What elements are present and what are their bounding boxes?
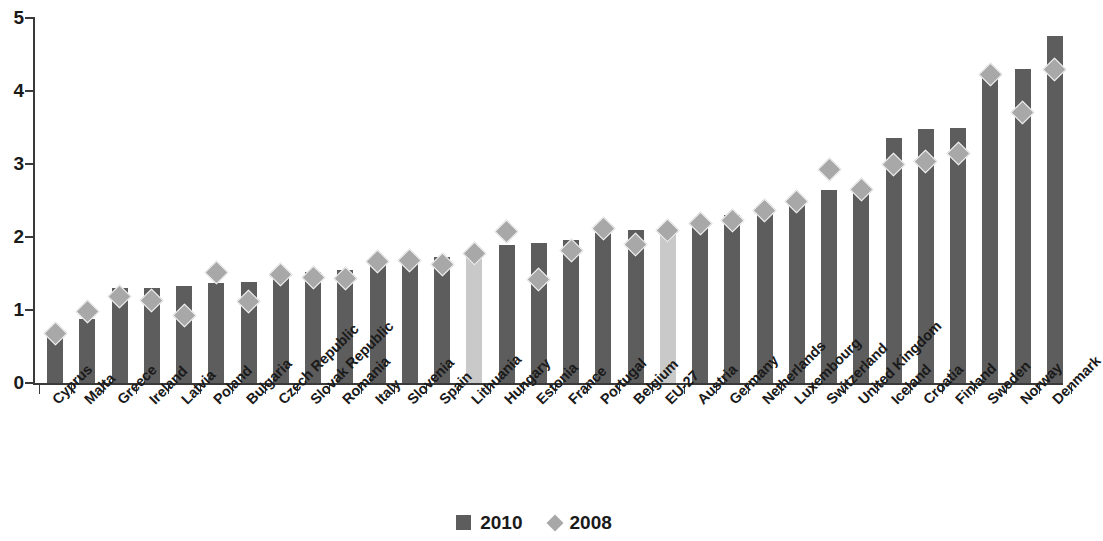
legend-item-2008[interactable]: 2008 (549, 513, 612, 532)
x-axis-tick (394, 385, 395, 394)
legend-label: 2008 (570, 513, 612, 532)
y-axis-tick-label: 0 (2, 373, 24, 392)
y-axis-tick-label: 5 (2, 8, 24, 27)
bar-switzerland (821, 190, 837, 383)
bar-netherlands (757, 209, 773, 383)
bar-hungary (499, 245, 515, 383)
x-axis-tick (297, 385, 298, 394)
x-axis-tick (748, 385, 749, 394)
y-axis-tick-label: 1 (2, 300, 24, 319)
square-icon (456, 515, 471, 530)
x-axis-tick (329, 385, 330, 394)
x-axis-tick (136, 385, 137, 394)
legend-label: 2010 (480, 513, 522, 532)
marker-switzerland (817, 157, 841, 181)
x-axis-tick (490, 385, 491, 394)
bar-portugal (595, 233, 611, 383)
x-axis-tick (587, 385, 588, 394)
x-axis-tick (716, 385, 717, 394)
marker-hungary (494, 220, 518, 244)
bar-italy (370, 265, 386, 383)
bar-slovenia (402, 261, 418, 383)
x-axis-line (33, 383, 1063, 385)
bar-austria (692, 225, 708, 383)
bar-lithuania (466, 253, 482, 383)
y-axis-tick-label: 2 (2, 227, 24, 246)
x-axis-tick (619, 385, 620, 394)
x-axis-tick (265, 385, 266, 394)
plot-area (33, 18, 1063, 383)
x-axis-tick (910, 385, 911, 394)
x-axis-tick (555, 385, 556, 394)
y-axis-tick-label: 4 (2, 81, 24, 100)
x-axis-tick (168, 385, 169, 394)
x-axis-tick (1039, 385, 1040, 394)
bar-czech-republic (273, 275, 289, 383)
x-axis-tick (942, 385, 943, 394)
x-axis-tick (845, 385, 846, 394)
x-axis-tick (361, 385, 362, 394)
y-axis-tick-label: 3 (2, 154, 24, 173)
x-axis-tick (1071, 385, 1072, 394)
marker-poland (204, 261, 228, 285)
x-axis-tick (652, 385, 653, 394)
x-axis-tick (232, 385, 233, 394)
diamond-icon (546, 514, 563, 531)
x-axis-tick (71, 385, 72, 394)
bar-poland (208, 283, 224, 383)
bar-sweden (982, 78, 998, 383)
x-axis-tick (684, 385, 685, 394)
x-axis-tick (39, 385, 40, 394)
legend-item-2010[interactable]: 2010 (456, 513, 522, 532)
x-axis-tick (974, 385, 975, 394)
chart-legend: 20102008 (0, 513, 1068, 532)
x-axis-tick (877, 385, 878, 394)
bar-luxembourg (789, 205, 805, 383)
bar-estonia (531, 243, 547, 383)
x-axis-tick (781, 385, 782, 394)
x-axis-tick (523, 385, 524, 394)
bar-malta (79, 319, 95, 383)
bar-latvia (176, 286, 192, 383)
bar-denmark (1047, 36, 1063, 383)
bar-germany (724, 215, 740, 383)
bar-united-kingdom (853, 193, 869, 383)
x-axis-tick (103, 385, 104, 394)
bar-eu-27 (660, 228, 676, 383)
x-axis-tick (200, 385, 201, 394)
x-axis-tick (813, 385, 814, 394)
x-axis-tick (426, 385, 427, 394)
x-axis-tick (1006, 385, 1007, 394)
x-axis-tick (458, 385, 459, 394)
